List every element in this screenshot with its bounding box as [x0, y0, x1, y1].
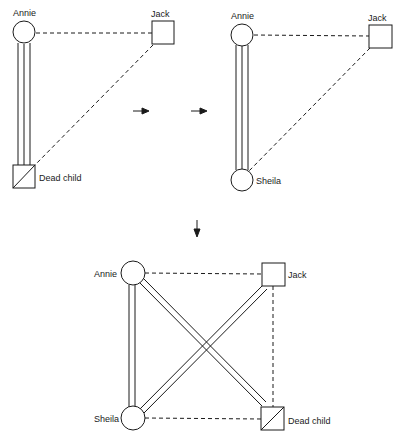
p1-dead-child-crossed-square-icon	[13, 165, 35, 188]
p1-jack-label: Jack	[151, 9, 170, 19]
arrow-down	[194, 220, 200, 237]
p3-edge-sheila-jack-double	[139, 285, 267, 414]
p3-edge-annie-deadchild-double	[139, 278, 266, 406]
p1-edge-jack-deadchild-dashed	[35, 45, 153, 165]
arrow-right-2	[191, 108, 207, 114]
p1-dead-child-label: Dead child	[39, 173, 82, 183]
p1-annie-circle-icon	[13, 21, 35, 43]
panel-1	[13, 21, 174, 188]
panel-2	[231, 24, 392, 191]
p2-edge-annie-sheila-triple	[236, 45, 248, 170]
p3-sheila-label: Sheila	[94, 414, 119, 424]
p3-annie-label: Annie	[94, 269, 117, 279]
p3-dead-child-crossed-square-icon	[261, 407, 284, 430]
arrow-right-1	[133, 108, 149, 114]
p1-jack-square-icon	[152, 21, 174, 44]
p1-annie-label: Annie	[13, 8, 36, 18]
p2-sheila-circle-icon	[231, 169, 253, 191]
p3-sheila-circle-icon	[121, 406, 145, 430]
relationship-diagram-canvas: Annie Jack Dead child Annie Jack Sheila …	[0, 0, 408, 447]
p1-edge-annie-deadchild-triple	[18, 43, 30, 165]
p3-jack-label: Jack	[288, 270, 307, 280]
p3-edge-sheila-deadchild-dashed	[145, 418, 261, 419]
p3-dead-child-label: Dead child	[288, 416, 331, 426]
p3-edge-annie-jack-dashed	[145, 273, 262, 274]
diagram-svg	[0, 0, 408, 447]
p2-annie-circle-icon	[231, 24, 253, 46]
p2-annie-label: Annie	[231, 11, 254, 21]
p3-annie-circle-icon	[121, 261, 145, 285]
panel-3	[121, 261, 285, 430]
p3-jack-square-icon	[262, 263, 285, 286]
p2-jack-label: Jack	[368, 13, 387, 23]
p2-edge-annie-jack-dashed	[254, 35, 369, 36]
p2-jack-square-icon	[369, 25, 392, 48]
p2-edge-jack-sheila-dashed	[249, 48, 370, 171]
p3-edge-annie-sheila-double	[129, 285, 135, 407]
p2-sheila-label: Sheila	[256, 176, 281, 186]
